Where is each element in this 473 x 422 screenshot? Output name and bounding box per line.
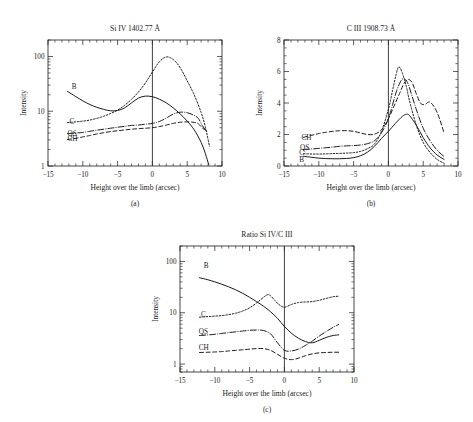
- chart-svg-c: Ratio Si IV/C III−15−10−50510110100BCQSC…: [112, 210, 392, 422]
- x-axis-label: Height over the limb (arcsec): [91, 183, 180, 192]
- curve-label-ch: CH: [199, 344, 209, 352]
- y-tick-label: 10: [169, 309, 177, 317]
- y-tick-label: 100: [166, 258, 177, 266]
- x-tick-label: −5: [246, 377, 254, 385]
- x-axis-label: Height over the limb (arcsec): [223, 389, 312, 398]
- figure-container: Si IV 1402.77 Å−15−10−50510110100BCQSCHH…: [0, 0, 473, 422]
- x-tick-label: −15: [42, 171, 54, 179]
- x-tick-label: −10: [313, 171, 325, 179]
- curve-label-qs: QS: [199, 328, 208, 336]
- curve-label-b: B: [204, 262, 209, 270]
- y-axis-label: Intensity: [19, 90, 28, 116]
- x-tick-label: −5: [114, 171, 122, 179]
- y-tick-label: 1: [41, 163, 45, 171]
- series-curve-b: [303, 114, 444, 159]
- x-tick-label: 0: [151, 171, 155, 179]
- x-tick-label: 0: [283, 377, 287, 385]
- chart-panel-b: C III 1908.73 Å−15−10−5051002468CHQSCBHe…: [234, 6, 473, 211]
- curve-label-ch: CH: [67, 135, 77, 143]
- chart-panel-c: Ratio Si IV/C III−15−10−50510110100BCQSC…: [112, 210, 392, 422]
- x-tick-label: −5: [350, 171, 358, 179]
- series-curve-c: [199, 295, 338, 318]
- plot-frame: [284, 40, 458, 166]
- series-curve-qs: [199, 325, 338, 352]
- x-tick-label: 5: [421, 171, 425, 179]
- y-tick-label: 1: [173, 361, 177, 369]
- y-tick-label: 6: [277, 68, 281, 76]
- curves-group: [303, 67, 444, 163]
- x-axis-label: Height over the limb (arcsec): [327, 183, 416, 192]
- x-tick-label: −15: [278, 171, 290, 179]
- y-tick-label: 100: [34, 53, 45, 61]
- panel-caption: (c): [263, 405, 272, 414]
- curve-label-b: B: [299, 156, 304, 164]
- series-curve-qs: [67, 112, 206, 134]
- chart-svg-b: C III 1908.73 Å−15−10−5051002468CHQSCBHe…: [234, 6, 473, 211]
- chart-title: C III 1908.73 Å: [347, 24, 396, 33]
- x-tick-label: −10: [209, 377, 221, 385]
- y-tick-label: 8: [277, 37, 281, 45]
- x-tick-label: 5: [317, 377, 321, 385]
- curve-label-c: C: [201, 311, 206, 319]
- y-axis-label: Intensity: [255, 90, 264, 116]
- series-curve-b: [199, 278, 338, 343]
- x-tick-label: 0: [387, 171, 391, 179]
- y-tick-label: 2: [277, 131, 281, 139]
- series-curve-c: [303, 67, 444, 163]
- x-tick-label: 10: [350, 377, 358, 385]
- series-curve-b: [67, 91, 208, 164]
- curve-label-b: B: [72, 83, 77, 91]
- x-tick-label: −15: [174, 377, 186, 385]
- curves-group: [67, 57, 209, 165]
- chart-title: Ratio Si IV/C III: [241, 230, 293, 239]
- curves-group: [199, 278, 338, 360]
- series-curve-ch: [199, 348, 338, 359]
- x-tick-label: 5: [185, 171, 189, 179]
- y-tick-label: 4: [277, 100, 281, 108]
- y-tick-label: 10: [37, 108, 45, 116]
- chart-panel-a: Si IV 1402.77 Å−15−10−50510110100BCQSCHH…: [0, 6, 236, 211]
- plot-frame: [48, 40, 222, 166]
- series-curve-c: [67, 57, 209, 146]
- chart-svg-a: Si IV 1402.77 Å−15−10−50510110100BCQSCHH…: [0, 6, 236, 211]
- curve-label-c: C: [70, 118, 75, 126]
- panel-caption: (b): [367, 199, 376, 208]
- series-curve-ch: [67, 122, 206, 140]
- curve-label-ch: CH: [301, 134, 311, 142]
- panel-caption: (a): [131, 199, 140, 208]
- y-axis-label: Intensity: [151, 296, 160, 322]
- x-tick-label: 10: [218, 171, 226, 179]
- y-tick-label: 0: [277, 163, 281, 171]
- x-tick-label: −10: [77, 171, 89, 179]
- chart-title: Si IV 1402.77 Å: [110, 24, 161, 33]
- x-tick-label: 10: [454, 171, 462, 179]
